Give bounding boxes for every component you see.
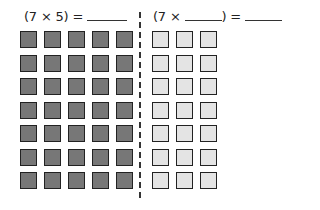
unit-square — [68, 172, 85, 189]
unit-square — [44, 172, 61, 189]
right-equation-close: ) = — [222, 9, 245, 24]
right-equation-open: (7 × — [153, 9, 185, 24]
left-equation-text: (7 × 5) = — [24, 9, 87, 24]
unit-square — [68, 149, 85, 166]
unit-square — [68, 125, 85, 142]
unit-square — [44, 55, 61, 72]
unit-square — [152, 125, 169, 142]
unit-square — [152, 78, 169, 95]
unit-square — [152, 149, 169, 166]
unit-square — [152, 172, 169, 189]
right-equation: (7 × ) = — [153, 8, 282, 24]
unit-square — [20, 55, 37, 72]
unit-square — [44, 125, 61, 142]
left-answer-blank — [87, 8, 127, 21]
unit-square — [68, 55, 85, 72]
unit-square — [20, 172, 37, 189]
unit-square — [20, 149, 37, 166]
unit-square — [116, 172, 133, 189]
unit-square — [152, 31, 169, 48]
unit-square — [200, 78, 217, 95]
unit-square — [116, 31, 133, 48]
unit-square — [92, 78, 109, 95]
unit-square — [92, 102, 109, 119]
unit-square — [68, 78, 85, 95]
unit-square — [68, 102, 85, 119]
unit-square — [44, 149, 61, 166]
unit-square — [116, 125, 133, 142]
unit-square — [200, 31, 217, 48]
unit-square — [92, 125, 109, 142]
left-equation: (7 × 5) = — [24, 8, 127, 24]
unit-square — [116, 102, 133, 119]
unit-square — [176, 102, 193, 119]
unit-square — [116, 149, 133, 166]
unit-square — [200, 172, 217, 189]
unit-square — [152, 55, 169, 72]
unit-square — [176, 172, 193, 189]
unit-square — [92, 149, 109, 166]
unit-square — [200, 125, 217, 142]
unit-square — [44, 31, 61, 48]
unit-square — [20, 125, 37, 142]
unit-square — [20, 78, 37, 95]
unit-square — [44, 102, 61, 119]
unit-square — [20, 31, 37, 48]
unit-square — [92, 172, 109, 189]
right-answer-blank — [245, 8, 282, 21]
unit-square — [116, 55, 133, 72]
unit-square — [92, 55, 109, 72]
unit-square — [68, 31, 85, 48]
unit-square — [176, 31, 193, 48]
unit-square — [200, 55, 217, 72]
unit-square — [200, 149, 217, 166]
unit-square — [92, 31, 109, 48]
unit-square — [152, 102, 169, 119]
unit-square — [44, 78, 61, 95]
right-factor-blank — [185, 8, 222, 21]
unit-square — [20, 102, 37, 119]
unit-square — [176, 78, 193, 95]
dashed-divider — [139, 12, 141, 198]
unit-square — [116, 78, 133, 95]
unit-square — [176, 149, 193, 166]
unit-square — [176, 125, 193, 142]
unit-square — [176, 55, 193, 72]
unit-square — [200, 102, 217, 119]
